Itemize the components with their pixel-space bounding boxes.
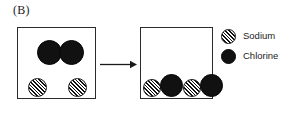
legend-label-chlorine: Chlorine <box>243 51 278 61</box>
reactant-atom-chlorine-2 <box>59 40 84 65</box>
legend: SodiumChlorine <box>221 26 295 66</box>
reactant-atom-sodium-4 <box>68 78 87 97</box>
legend-row-sodium: Sodium <box>221 26 295 46</box>
legend-label-sodium: Sodium <box>243 31 275 41</box>
sodium-atom-icon <box>221 29 236 44</box>
product-atom-sodium-1 <box>143 79 161 97</box>
panel-label: (B) <box>13 3 30 18</box>
chlorine-atom-icon <box>221 49 236 64</box>
product-atom-chlorine-4 <box>200 74 223 97</box>
reaction-arrow-icon <box>100 60 137 69</box>
reactant-atom-sodium-3 <box>28 78 47 97</box>
product-atom-chlorine-2 <box>160 74 183 97</box>
figure-canvas: (B) SodiumChlorine <box>0 0 296 115</box>
product-atom-sodium-3 <box>183 79 201 97</box>
legend-row-chlorine: Chlorine <box>221 46 295 66</box>
